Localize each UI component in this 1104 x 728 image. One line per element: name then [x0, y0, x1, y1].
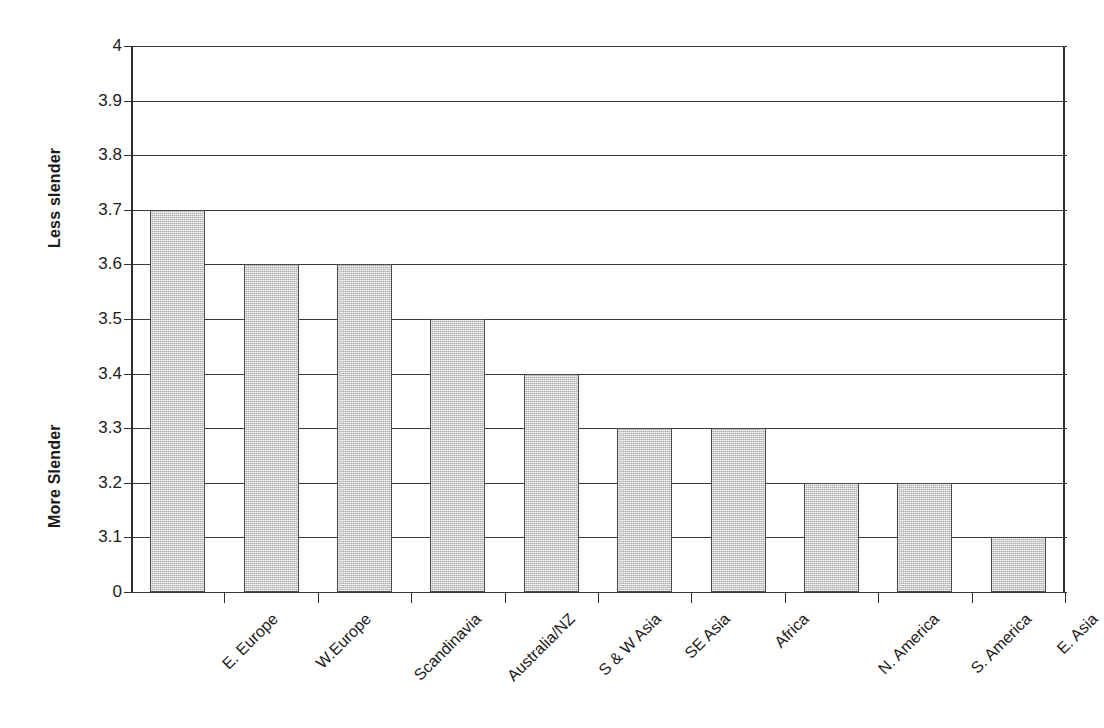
- x-axis-tick-mark: [691, 592, 692, 603]
- x-axis-tick-mark: [224, 592, 225, 603]
- y-axis-tick-label: 3.2: [98, 474, 122, 491]
- y-axis-tick-label: 3.1: [98, 528, 122, 545]
- x-axis-category-label: S & W Asia: [595, 610, 664, 679]
- x-axis-tick-mark: [785, 592, 786, 603]
- x-axis-tick-mark: [318, 592, 319, 603]
- x-axis-category-label: SE Asia: [682, 610, 734, 662]
- bar: [617, 428, 672, 592]
- x-axis-tick-mark: [598, 592, 599, 603]
- x-axis-category-label: E. Europe: [219, 610, 282, 673]
- bar: [804, 483, 859, 592]
- x-axis-category-label: Africa: [771, 610, 813, 652]
- x-axis-category-label: Scandinavia: [411, 610, 485, 684]
- bar: [711, 428, 766, 592]
- bars-layer: [131, 46, 1065, 592]
- y-axis-tick-label: 4: [113, 37, 122, 54]
- y-axis-tick-label: 3.8: [98, 146, 122, 163]
- bar: [991, 537, 1046, 592]
- x-axis-category-label: W.Europe: [312, 610, 374, 672]
- y-axis-tick-label: 3.7: [98, 201, 122, 218]
- x-axis-category-label: Australia/NZ: [504, 610, 579, 685]
- bar: [897, 483, 952, 592]
- bar: [337, 264, 392, 592]
- x-axis-category-label: E. Asia: [1053, 610, 1101, 658]
- x-axis-tick-mark: [505, 592, 506, 603]
- x-axis-tick-mark: [878, 592, 879, 603]
- bar: [430, 319, 485, 592]
- y-axis-tick-label: 3.4: [98, 365, 122, 382]
- y-axis-tick-label: 3.3: [98, 419, 122, 436]
- x-axis-tick-mark: [411, 592, 412, 603]
- y-axis-tick-label: 3.9: [98, 92, 122, 109]
- bar: [244, 264, 299, 592]
- y-axis-tick-label: 0: [113, 583, 122, 600]
- bar: [150, 210, 205, 592]
- y-axis-tick-label: 3.6: [98, 255, 122, 272]
- x-axis-category-label: N. America: [875, 610, 943, 678]
- y-axis-tick-label: 3.5: [98, 310, 122, 327]
- x-axis-tick-mark: [972, 592, 973, 603]
- y-axis-tick-labels: 43.93.83.73.63.53.43.33.23.10: [60, 46, 122, 592]
- bar: [524, 374, 579, 592]
- x-axis-category-label: S. America: [968, 610, 1035, 677]
- x-axis: E. EuropeW.EuropeScandinaviaAustralia/NZ…: [131, 592, 1065, 728]
- x-axis-tick-mark: [1065, 592, 1066, 603]
- bar-chart: Less slender More Slender 43.93.83.73.63…: [0, 0, 1104, 728]
